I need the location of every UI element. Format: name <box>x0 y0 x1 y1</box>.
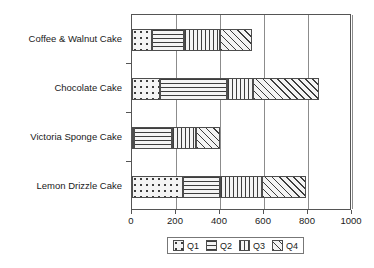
bar-row <box>132 78 352 100</box>
x-axis-tick-label: 600 <box>255 215 271 226</box>
bar-segment-q2 <box>152 29 184 51</box>
category-label: Coffee & Walnut Cake <box>29 33 122 44</box>
bar-segment-q2 <box>183 176 220 198</box>
x-axis-tick-label: 400 <box>211 215 227 226</box>
x-axis-tick <box>175 210 176 214</box>
legend-swatch-horizontal-lines <box>206 240 217 251</box>
legend-swatch-diagonal-lines <box>272 240 283 251</box>
legend-label: Q1 <box>187 241 199 251</box>
bar-segment-q3 <box>172 127 196 149</box>
y-axis-tick <box>126 161 131 162</box>
bar-segment-q3 <box>184 29 220 51</box>
y-axis-tick <box>126 63 131 64</box>
gridline-1000 <box>352 15 353 209</box>
bar-segment-q2 <box>160 78 227 100</box>
bar-chart: Coffee & Walnut CakeChocolate CakeVictor… <box>0 0 374 268</box>
x-axis-tick <box>219 210 220 214</box>
legend-label: Q3 <box>253 241 265 251</box>
legend-swatch-dots <box>173 240 184 251</box>
legend-entry-q3: Q3 <box>239 240 265 251</box>
bar-segment-q4 <box>220 29 252 51</box>
y-axis-tick <box>126 112 131 113</box>
legend-label: Q4 <box>286 241 298 251</box>
bar-segment-q4 <box>253 78 319 100</box>
x-axis-tick <box>351 210 352 214</box>
bar-segment-q1 <box>132 29 152 51</box>
x-axis-tick <box>131 210 132 214</box>
chart-legend: Q1Q2Q3Q4 <box>167 237 304 254</box>
plot-area <box>131 14 351 210</box>
category-axis-labels: Coffee & Walnut CakeChocolate CakeVictor… <box>0 14 127 210</box>
category-label: Chocolate Cake <box>54 82 122 93</box>
x-axis-tick-label: 1000 <box>340 215 361 226</box>
x-axis-tick-label: 200 <box>167 215 183 226</box>
bar-segment-q2 <box>134 127 171 149</box>
bar-segment-q1 <box>132 78 160 100</box>
x-axis-tick-label: 800 <box>299 215 315 226</box>
bar-segment-q4 <box>262 176 306 198</box>
category-label: Lemon Drizzle Cake <box>36 180 122 191</box>
bar-row <box>132 176 352 198</box>
legend-entry-q2: Q2 <box>206 240 232 251</box>
x-axis-tick <box>263 210 264 214</box>
x-axis-tick-label: 0 <box>128 215 133 226</box>
bar-row <box>132 29 352 51</box>
legend-entry-q1: Q1 <box>173 240 199 251</box>
legend-entry-q4: Q4 <box>272 240 298 251</box>
bar-row <box>132 127 352 149</box>
legend-label: Q2 <box>220 241 232 251</box>
bar-segment-q3 <box>220 176 262 198</box>
legend-swatch-vertical-lines <box>239 240 250 251</box>
category-label: Victoria Sponge Cake <box>30 131 122 142</box>
x-axis-tick <box>307 210 308 214</box>
bar-segment-q3 <box>227 78 253 100</box>
bar-segment-q1 <box>132 176 183 198</box>
bar-segment-q4 <box>196 127 220 149</box>
